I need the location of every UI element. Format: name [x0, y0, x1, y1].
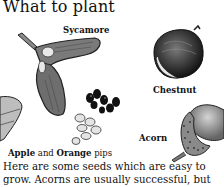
chestnut-label: Chestnut: [153, 85, 196, 95]
acorn-icon: [168, 98, 224, 164]
sycamore-label: Sycamore: [63, 25, 109, 35]
apple-orange-pips-caption: Apple and Orange pips: [8, 148, 112, 158]
leaf-fragment-icon: [0, 95, 25, 145]
apple-label: Apple: [8, 148, 35, 158]
orange-label: Orange: [57, 148, 92, 158]
acorn-label: Acorn: [139, 133, 167, 143]
page-title: What to plant: [3, 0, 115, 16]
and-text: and: [35, 148, 56, 158]
apple-pips-icon: [70, 110, 110, 146]
pips-text: pips: [91, 148, 112, 158]
body-line: grow. Acorns are usually successful, but: [3, 173, 224, 186]
body-paragraph: Here are some seeds which are easy to gr…: [3, 160, 224, 186]
chestnut-icon: [148, 24, 208, 82]
body-line: Here are some seeds which are easy to: [3, 160, 224, 173]
